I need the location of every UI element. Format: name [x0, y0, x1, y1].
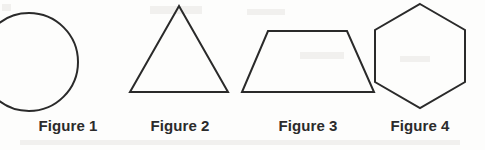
shape-circle [8, 0, 128, 120]
figure-item-2: Figure 2 [128, 0, 232, 150]
figure-item-3: Figure 3 [238, 0, 378, 150]
shape-triangle [128, 0, 232, 120]
figure-label-2: Figure 2 [128, 117, 232, 134]
figure-sheet: Figure 1 Figure 2 Figure 3 Figure 4 [0, 0, 485, 150]
figure-item-4: Figure 4 [370, 0, 470, 150]
shape-hexagon [370, 0, 470, 120]
shape-trapezoid [238, 0, 378, 120]
figure-label-1: Figure 1 [8, 117, 128, 134]
figure-label-3: Figure 3 [238, 117, 378, 134]
figure-label-4: Figure 4 [370, 117, 470, 134]
figure-item-1: Figure 1 [8, 0, 128, 150]
